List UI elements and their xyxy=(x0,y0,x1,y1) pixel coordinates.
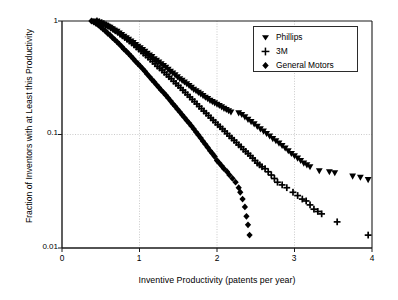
diamond-icon xyxy=(254,61,276,70)
triangle-down-icon xyxy=(254,33,276,42)
legend-item-general-motors: General Motors xyxy=(254,58,357,72)
series-general-motors xyxy=(88,18,252,239)
legend-item-phillips: Phillips xyxy=(254,30,357,44)
legend-item-3m: 3M xyxy=(254,44,357,58)
chart-figure: Fraction of Inventors with at Least this… xyxy=(0,0,398,300)
plus-icon xyxy=(254,47,276,56)
legend-label-3m: 3M xyxy=(276,46,288,56)
legend: Phillips 3M General Motors xyxy=(253,26,358,72)
legend-label-phillips: Phillips xyxy=(276,32,303,42)
legend-label-general-motors: General Motors xyxy=(276,60,334,70)
